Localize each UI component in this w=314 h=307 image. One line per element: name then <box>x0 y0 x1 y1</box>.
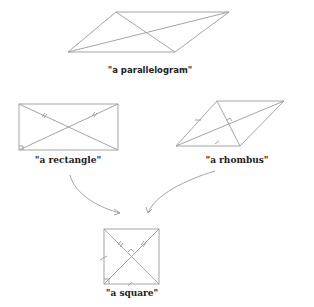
parallelogram-label: "a parallelogram" <box>108 65 193 75</box>
rhombus-shape <box>176 101 284 146</box>
square-shape <box>100 229 159 286</box>
arrow-rhombus-to-square <box>146 171 215 213</box>
parallelogram-shape <box>68 12 229 52</box>
rectangle-label: "a rectangle" <box>35 155 101 165</box>
diagram-canvas <box>0 0 314 307</box>
arrow-rectangle-to-square <box>70 175 120 215</box>
rhombus-label: "a rhombus" <box>205 155 268 165</box>
rectangle-shape <box>19 104 118 150</box>
square-label: "a square" <box>106 288 159 298</box>
